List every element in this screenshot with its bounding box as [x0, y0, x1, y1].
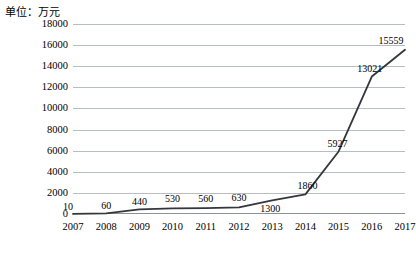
x-axis-tick-labels: 2007200820092010201120122013201420152016…	[73, 221, 405, 237]
x-axis-tick-label: 2013	[262, 221, 283, 233]
y-axis-tick-label: 14000	[0, 61, 68, 72]
data-point-label: 630	[232, 193, 247, 203]
y-axis-tick-label: 2000	[0, 188, 68, 199]
y-axis-tick-label: 12000	[0, 82, 68, 93]
data-point-label: 1300	[260, 204, 280, 214]
data-point-label: 10	[63, 202, 73, 212]
x-axis-tick-label: 2016	[361, 221, 382, 233]
series-polyline	[73, 50, 405, 214]
x-axis-tick-label: 2017	[395, 221, 416, 233]
y-axis-tick-label: 10000	[0, 103, 68, 114]
data-point-label: 440	[132, 197, 147, 207]
y-axis-tick-label: 8000	[0, 125, 68, 136]
x-axis-tick-label: 2007	[63, 221, 84, 233]
data-point-label: 5927	[328, 139, 348, 149]
y-axis-tick-label: 0	[0, 209, 68, 220]
y-axis-tick-label: 6000	[0, 146, 68, 157]
y-axis-tick-label: 4000	[0, 167, 68, 178]
plot-area: 10604405305606301300186059271302115559	[73, 24, 405, 214]
x-axis-tick-label: 2015	[328, 221, 349, 233]
chart-unit-title: 单位：万元	[5, 3, 60, 19]
data-point-label: 560	[198, 194, 213, 204]
y-axis-tick-labels: 0200040006000800010000120001400016000180…	[0, 24, 68, 214]
x-axis-tick-label: 2010	[162, 221, 183, 233]
x-axis-tick-label: 2014	[295, 221, 316, 233]
x-axis-tick-label: 2011	[195, 221, 216, 233]
x-axis-tick-label: 2008	[96, 221, 117, 233]
x-axis-tick-label: 2012	[229, 221, 250, 233]
y-axis-tick-label: 16000	[0, 40, 68, 51]
data-point-label: 15559	[379, 36, 404, 46]
y-axis-tick-label: 18000	[0, 19, 68, 30]
data-point-label: 530	[165, 194, 180, 204]
data-point-label: 13021	[357, 64, 382, 74]
x-axis-tick-label: 2009	[129, 221, 150, 233]
data-point-label: 60	[101, 201, 111, 211]
series-line	[73, 24, 405, 214]
data-point-label: 1860	[297, 181, 317, 191]
